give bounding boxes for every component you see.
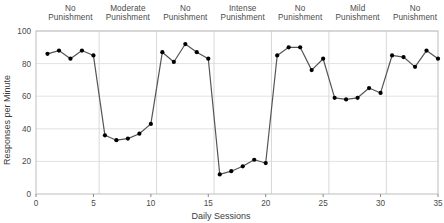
plot-border <box>36 31 438 194</box>
data-point <box>57 48 61 52</box>
data-point <box>206 57 210 61</box>
data-point <box>367 86 371 90</box>
data-point <box>91 53 95 57</box>
plot-frame <box>36 31 438 194</box>
data-point <box>424 48 428 52</box>
data-point <box>114 138 118 142</box>
data-point <box>390 53 394 57</box>
data-point <box>45 52 49 56</box>
data-point <box>183 42 187 46</box>
data-point <box>298 45 302 49</box>
data-point <box>264 161 268 165</box>
grid-lines <box>36 31 438 161</box>
y-axis-title: Responses per Minute <box>2 74 12 164</box>
data-point <box>378 91 382 95</box>
data-point <box>68 57 72 61</box>
data-point <box>413 65 417 69</box>
data-point <box>103 133 107 137</box>
data-point <box>344 97 348 101</box>
y-tick-label: 0 <box>6 190 31 199</box>
data-point <box>310 68 314 72</box>
x-tick-label: 25 <box>319 199 328 208</box>
x-tick-label: 15 <box>204 199 213 208</box>
x-tick-label: 10 <box>146 199 155 208</box>
data-series <box>45 42 440 177</box>
data-point <box>252 158 256 162</box>
data-point <box>137 132 141 136</box>
x-tick-label: 0 <box>34 199 39 208</box>
data-point <box>229 169 233 173</box>
x-tick-label: 35 <box>433 199 442 208</box>
x-axis-title: Daily Sessions <box>0 211 442 221</box>
x-tick-label: 5 <box>91 199 96 208</box>
data-point <box>126 136 130 140</box>
x-tick-label: 30 <box>376 199 385 208</box>
data-point <box>241 164 245 168</box>
phase-divider-lines <box>99 31 386 194</box>
y-tick-label: 100 <box>6 27 31 36</box>
data-point <box>195 50 199 54</box>
data-point <box>80 48 84 52</box>
data-point <box>287 45 291 49</box>
data-point <box>218 172 222 176</box>
x-tick-label: 20 <box>261 199 270 208</box>
data-point <box>149 122 153 126</box>
y-tick-label: 80 <box>6 59 31 68</box>
data-point <box>160 50 164 54</box>
data-point <box>172 60 176 64</box>
data-point <box>321 57 325 61</box>
data-point <box>275 53 279 57</box>
data-point <box>333 96 337 100</box>
data-point <box>401 55 405 59</box>
data-point <box>356 96 360 100</box>
data-point <box>436 57 440 61</box>
